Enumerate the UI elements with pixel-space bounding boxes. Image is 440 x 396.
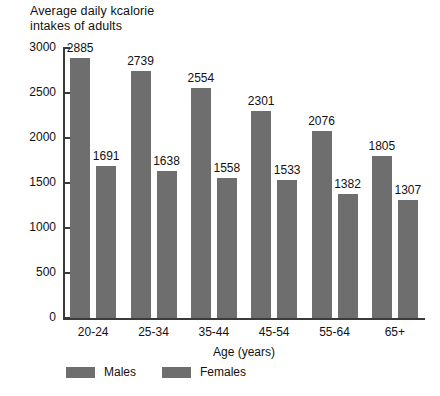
x-axis-line: [63, 318, 425, 320]
y-axis-tick-label: 2500: [8, 85, 56, 99]
legend-label: Females: [200, 365, 246, 379]
legend-item: Males: [66, 365, 136, 379]
y-axis-tick: [63, 92, 70, 94]
bar-value-label: 1558: [204, 161, 250, 175]
y-axis-tick-label: 1500: [8, 175, 56, 189]
bar: [338, 194, 358, 318]
legend-item: Females: [162, 365, 246, 379]
legend-swatch-icon: [162, 367, 191, 378]
x-axis-title: Age (years): [63, 345, 425, 359]
y-axis-tick-label: 500: [8, 265, 56, 279]
chart-title: Average daily kcalorie intakes of adults: [30, 4, 270, 33]
bar: [191, 88, 211, 318]
bar-value-label: 1691: [83, 149, 129, 163]
y-axis-tick: [63, 227, 70, 229]
chart-legend: MalesFemales: [66, 365, 246, 379]
bar: [312, 131, 332, 318]
bar-value-label: 1533: [264, 163, 310, 177]
bar: [217, 178, 237, 318]
y-axis-tick-label: 1000: [8, 220, 56, 234]
x-axis-category-label: 65+: [359, 325, 431, 339]
bar: [372, 156, 392, 318]
y-axis-tick: [63, 137, 70, 139]
bar-value-label: 1638: [144, 154, 190, 168]
y-axis-tick-label: 2000: [8, 130, 56, 144]
bar: [398, 200, 418, 318]
bar: [251, 111, 271, 318]
bar-value-label: 1307: [385, 183, 431, 197]
bar-value-label: 2076: [299, 114, 345, 128]
bar-value-label: 1382: [325, 177, 371, 191]
bar: [96, 166, 116, 318]
y-axis-tick: [63, 272, 70, 274]
bar-value-label: 2739: [118, 54, 164, 68]
y-axis-tick: [63, 182, 70, 184]
bar: [277, 180, 297, 318]
bar: [70, 58, 90, 318]
y-axis-tick: [63, 317, 70, 319]
legend-swatch-icon: [66, 367, 95, 378]
bar-value-label: 2301: [238, 94, 284, 108]
bar: [131, 71, 151, 318]
bar-chart: Average daily kcalorie intakes of adults…: [0, 0, 440, 396]
y-axis-tick-label: 3000: [8, 40, 56, 54]
legend-label: Males: [104, 365, 136, 379]
bar-value-label: 1805: [359, 139, 405, 153]
bar-value-label: 2885: [57, 41, 103, 55]
y-axis-tick-label: 0: [8, 310, 56, 324]
bar-value-label: 2554: [178, 71, 224, 85]
bar: [157, 171, 177, 318]
